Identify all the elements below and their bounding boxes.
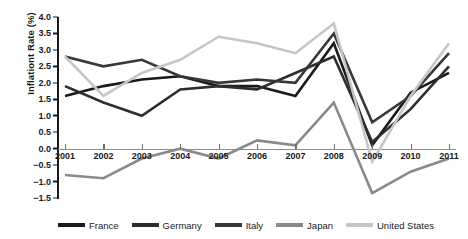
legend-entry-united-states[interactable]: United States xyxy=(346,220,434,231)
y-axis-tick: 3.5 xyxy=(38,29,58,38)
y-axis-tick-label: 2.5 xyxy=(38,62,51,71)
legend-label: France xyxy=(89,220,119,231)
x-axis-tick-mark xyxy=(180,144,181,149)
legend-swatch xyxy=(276,223,303,226)
legend-label: United States xyxy=(377,220,434,231)
legend-swatch xyxy=(58,223,85,226)
x-axis-tick-mark xyxy=(334,144,335,149)
x-axis-tick-mark xyxy=(219,144,220,149)
x-axis-tick-label: 2008 xyxy=(324,151,344,161)
y-axis-tick-label: 1.0 xyxy=(38,111,51,120)
legend-entry-italy[interactable]: Italy xyxy=(215,220,263,231)
x-axis-tick-mark xyxy=(295,144,296,149)
x-axis-tick-label: 2010 xyxy=(401,151,421,161)
chart-legend: FranceGermanyItalyJapanUnited States xyxy=(58,216,462,234)
y-axis-tick-label: 3.5 xyxy=(38,29,51,38)
series-lines xyxy=(58,17,456,198)
y-axis-tick: −0.5 xyxy=(33,161,58,170)
y-axis-tick-label: −1.5 xyxy=(33,194,51,203)
y-axis-tick-label: −0.5 xyxy=(33,161,51,170)
legend-entry-germany[interactable]: Germany xyxy=(132,220,202,231)
legend-swatch xyxy=(215,223,242,226)
y-axis-tick-label: 0.0 xyxy=(38,144,51,153)
legend-label: Japan xyxy=(307,220,333,231)
y-axis-tick: 3.0 xyxy=(38,45,58,54)
y-axis-tick: 0.5 xyxy=(38,128,58,137)
x-axis-tick-mark xyxy=(372,144,373,149)
x-axis-tick-label: 2004 xyxy=(170,151,190,161)
legend-label: Germany xyxy=(163,220,202,231)
plot-area xyxy=(58,17,456,198)
y-axis-tick: 4.0 xyxy=(38,13,58,22)
y-axis-tick: 2.5 xyxy=(38,62,58,71)
y-axis-tick: 2.0 xyxy=(38,78,58,87)
y-axis-tick: 1.0 xyxy=(38,111,58,120)
x-axis-tick-label: 2005 xyxy=(209,151,229,161)
legend-entry-japan[interactable]: Japan xyxy=(276,220,333,231)
x-axis-tick-label: 2002 xyxy=(93,151,113,161)
y-axis-tick-label: 1.5 xyxy=(38,95,51,104)
x-axis-tick-label: 2003 xyxy=(132,151,152,161)
x-axis-tick-label: 2009 xyxy=(362,151,382,161)
y-axis-tick-label: 4.0 xyxy=(38,13,51,22)
x-axis-tick-label: 2007 xyxy=(285,151,305,161)
x-axis-tick-label: 2001 xyxy=(55,151,75,161)
x-axis-tick-mark xyxy=(142,144,143,149)
y-axis-tick-label: −1.0 xyxy=(33,177,51,186)
y-axis-tick-label: 0.5 xyxy=(38,128,51,137)
x-axis-tick-mark xyxy=(65,144,66,149)
y-axis-tick-label: 3.0 xyxy=(38,45,51,54)
inflation-rate-line-chart: Inflationt Rate (%) 4.03.53.02.52.01.51.… xyxy=(0,0,468,239)
x-axis-tick-mark xyxy=(103,144,104,149)
y-axis-tick: −1.0 xyxy=(33,177,58,186)
legend-entry-france[interactable]: France xyxy=(58,220,119,231)
x-axis-tick-mark xyxy=(257,144,258,149)
y-axis-tick-group: 4.03.53.02.52.01.51.00.50.0−0.5−1.0−1.5 xyxy=(0,17,58,199)
y-axis-tick-label: 2.0 xyxy=(38,78,51,87)
x-axis-tick-label: 2006 xyxy=(247,151,267,161)
y-axis-tick: 1.5 xyxy=(38,95,58,104)
y-axis-tick: −1.5 xyxy=(33,194,58,203)
x-axis-tick-label: 2011 xyxy=(439,151,459,161)
legend-swatch xyxy=(132,223,159,226)
legend-swatch xyxy=(346,223,373,226)
legend-label: Italy xyxy=(246,220,263,231)
x-axis-tick-mark xyxy=(449,144,450,149)
x-axis-tick-mark xyxy=(411,144,412,149)
